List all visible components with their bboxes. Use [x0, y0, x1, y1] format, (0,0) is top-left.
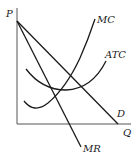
- monopoly-diagram: P Q MC ATC D MR: [0, 0, 138, 160]
- marginal-revenue-curve: [17, 21, 81, 147]
- x-axis-label: Q: [123, 128, 131, 138]
- mc-label: MC: [97, 15, 115, 25]
- diagram-svg: [0, 0, 138, 160]
- demand-curve: [17, 21, 118, 124]
- y-axis-label: P: [6, 9, 13, 19]
- demand-label: D: [117, 109, 125, 119]
- mr-label: MR: [83, 144, 101, 154]
- average-total-cost-curve: [26, 61, 106, 90]
- atc-label: ATC: [105, 50, 126, 60]
